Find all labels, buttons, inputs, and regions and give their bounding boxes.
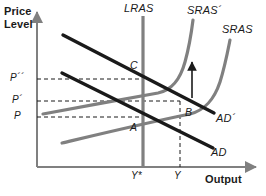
output-tick-y: Y <box>174 171 181 181</box>
y-axis-label-line1: Price <box>4 6 31 17</box>
ad-label: AD <box>211 147 227 158</box>
lras-label: LRAS <box>124 3 154 14</box>
price-tick-p-prime: P´ <box>12 95 22 105</box>
equilibrium-point-c-label: C <box>130 60 138 71</box>
ad-as-diagram: Price Level Output LRAS SRAS´ SRAS AD´ A… <box>0 0 266 196</box>
price-tick-p-double-prime: P´´ <box>10 73 24 83</box>
x-axis-label: Output <box>205 174 242 185</box>
output-tick-y-star: Y* <box>131 171 142 181</box>
sras-curve <box>62 40 230 143</box>
sras-prime-label: SRAS´ <box>187 5 222 16</box>
price-tick-p: P <box>14 111 21 121</box>
y-axis-label-line2: Level <box>4 19 33 30</box>
ad-prime-label: AD´ <box>216 113 236 124</box>
sras-label: SRAS <box>222 24 253 35</box>
equilibrium-point-b-label: B <box>185 107 192 118</box>
axes <box>37 12 256 167</box>
equilibrium-point-a-label: A <box>130 122 137 133</box>
